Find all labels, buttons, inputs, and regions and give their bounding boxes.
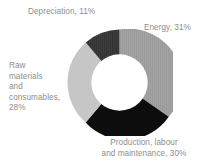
slice-label-energy: Energy, 31% <box>144 23 191 34</box>
slice-label-production: Production, labour and maintenance, 30% <box>83 138 205 159</box>
donut-chart-graphic <box>66 29 173 136</box>
donut-svg <box>66 29 173 136</box>
slice-label-depreciation: Depreciation, 11% <box>28 7 95 18</box>
donut-hole <box>91 54 147 110</box>
donut-chart-figure: Depreciation, 11% Energy, 31% Raw materi… <box>0 0 208 162</box>
slice-label-raw-materials: Raw materials and consumables, 28% <box>9 61 67 114</box>
